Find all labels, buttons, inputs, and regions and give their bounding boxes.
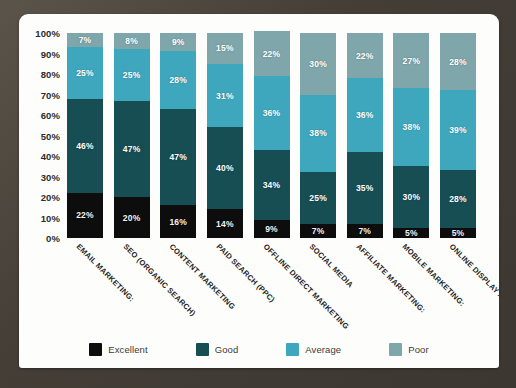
bar-segment-value-label: 30%	[403, 192, 421, 202]
bar-segment-excellent[interactable]: 22%	[67, 193, 103, 238]
y-axis-tick-label: 70%	[41, 89, 60, 100]
bar-segment-poor[interactable]: 22%	[347, 33, 383, 78]
bar-segment-excellent[interactable]: 5%	[440, 228, 476, 238]
bar-segment-good[interactable]: 40%	[207, 127, 243, 209]
bar-segment-excellent[interactable]: 5%	[393, 228, 429, 238]
bar-segment-value-label: 25%	[76, 68, 94, 78]
bar-segment-poor[interactable]: 30%	[300, 33, 336, 95]
bar-segment-value-label: 25%	[309, 193, 327, 203]
bar-segment-value-label: 14%	[216, 219, 234, 229]
bar-segment-value-label: 40%	[216, 163, 234, 173]
bar-column[interactable]: 7%25%38%30%	[300, 33, 336, 238]
legend-item-label: Excellent	[108, 344, 147, 355]
legend-item[interactable]: Average	[286, 343, 341, 356]
bar-segment-good[interactable]: 25%	[300, 172, 336, 223]
bar-segment-poor[interactable]: 8%	[114, 33, 150, 49]
bar-segment-average[interactable]: 39%	[440, 90, 476, 170]
bar-segment-poor[interactable]: 27%	[393, 33, 429, 88]
bar-segment-poor[interactable]: 15%	[207, 33, 243, 64]
legend-item[interactable]: Poor	[389, 343, 428, 356]
bar-column[interactable]: 5%30%38%27%	[393, 33, 429, 238]
bar-segment-excellent[interactable]: 16%	[160, 205, 196, 238]
legend-item[interactable]: Excellent	[89, 343, 147, 356]
x-axis-category-labels: EMAIL MARKETING:SEO (ORGANIC SEARCH)CONT…	[67, 242, 476, 342]
bar-segment-good[interactable]: 35%	[347, 152, 383, 224]
bar-segment-value-label: 39%	[449, 125, 467, 135]
bar-segment-value-label: 47%	[169, 152, 187, 162]
bar-column[interactable]: 5%28%39%28%	[440, 33, 476, 238]
bar-segment-value-label: 9%	[172, 37, 185, 47]
legend-item-label: Poor	[408, 344, 428, 355]
y-axis-tick-label: 0%	[46, 233, 60, 244]
bar-segment-excellent[interactable]: 14%	[207, 209, 243, 238]
bar-column[interactable]: 20%47%25%8%	[114, 33, 150, 238]
bar-segment-value-label: 27%	[403, 56, 421, 66]
legend-item-label: Good	[215, 344, 239, 355]
bar-column[interactable]: 22%46%25%7%	[67, 33, 103, 238]
bar-segment-value-label: 8%	[125, 36, 138, 46]
bar-segment-value-label: 7%	[312, 226, 325, 236]
bar-segment-good[interactable]: 46%	[67, 99, 103, 193]
bar-segment-excellent[interactable]: 9%	[254, 220, 290, 238]
x-axis-label: SOCIAL MEDIA	[308, 242, 355, 289]
bar-segment-average[interactable]: 38%	[393, 88, 429, 166]
bar-segment-value-label: 16%	[169, 217, 187, 227]
bar-segment-poor[interactable]: 7%	[67, 33, 103, 47]
bar-segment-value-label: 28%	[169, 75, 187, 85]
bar-segment-excellent[interactable]: 7%	[347, 224, 383, 238]
bar-column[interactable]: 9%34%36%22%	[254, 33, 290, 238]
bar-segment-poor[interactable]: 22%	[254, 31, 290, 76]
bar-segment-value-label: 7%	[358, 226, 371, 236]
y-axis-tick-label: 100%	[35, 28, 60, 39]
bar-segment-value-label: 7%	[79, 35, 92, 45]
bar-segment-value-label: 28%	[449, 194, 467, 204]
bar-segment-value-label: 35%	[356, 183, 374, 193]
legend-item[interactable]: Good	[196, 343, 239, 356]
bar-segment-value-label: 22%	[76, 210, 94, 220]
y-axis: 100%90%80%70%60%50%40%30%20%10%0%	[19, 33, 65, 238]
bar-segment-value-label: 34%	[263, 180, 281, 190]
bar-segment-value-label: 47%	[123, 144, 141, 154]
bar-segment-average[interactable]: 25%	[67, 47, 103, 98]
bar-segment-average[interactable]: 38%	[300, 95, 336, 173]
bar-segment-good[interactable]: 28%	[440, 170, 476, 227]
bar-segment-value-label: 20%	[123, 213, 141, 223]
bar-segment-excellent[interactable]: 7%	[300, 224, 336, 238]
bar-segment-value-label: 38%	[403, 122, 421, 132]
bar-column[interactable]: 16%47%28%9%	[160, 33, 196, 238]
photo-frame: 100%90%80%70%60%50%40%30%20%10%0% 22%46%…	[0, 0, 516, 388]
bar-segment-value-label: 22%	[263, 49, 281, 59]
bar-segment-value-label: 15%	[216, 43, 234, 53]
bar-segment-good[interactable]: 47%	[160, 109, 196, 205]
x-axis-label: OFFLINE DIRECT MARKETING	[261, 242, 350, 331]
bar-segment-poor[interactable]: 9%	[160, 33, 196, 51]
bar-segment-value-label: 31%	[216, 91, 234, 101]
bar-segment-average[interactable]: 28%	[160, 51, 196, 108]
legend-swatch-average	[286, 343, 299, 356]
bar-column[interactable]: 7%35%36%22%	[347, 33, 383, 238]
y-axis-tick-label: 10%	[41, 212, 60, 223]
bar-segment-good[interactable]: 47%	[114, 101, 150, 197]
bar-segment-value-label: 28%	[449, 57, 467, 67]
bar-segment-value-label: 46%	[76, 141, 94, 151]
plot-area: 22%46%25%7%20%47%25%8%16%47%28%9%14%40%3…	[67, 33, 476, 238]
bar-segment-value-label: 5%	[405, 228, 418, 238]
bar-segment-value-label: 22%	[356, 51, 374, 61]
y-axis-tick-label: 80%	[41, 69, 60, 80]
bar-segment-average[interactable]: 36%	[347, 78, 383, 152]
bar-segment-excellent[interactable]: 20%	[114, 197, 150, 238]
chart-legend: ExcellentGoodAveragePoor	[19, 343, 499, 356]
y-axis-tick-label: 40%	[41, 151, 60, 162]
bar-segment-average[interactable]: 36%	[254, 76, 290, 150]
chart-card: 100%90%80%70%60%50%40%30%20%10%0% 22%46%…	[19, 14, 499, 368]
bar-segment-value-label: 9%	[265, 224, 278, 234]
y-axis-tick-label: 60%	[41, 110, 60, 121]
bar-segment-average[interactable]: 25%	[114, 49, 150, 100]
legend-swatch-excellent	[89, 343, 102, 356]
legend-item-label: Average	[305, 344, 341, 355]
bar-segment-good[interactable]: 34%	[254, 150, 290, 220]
bar-segment-good[interactable]: 30%	[393, 166, 429, 228]
bar-segment-average[interactable]: 31%	[207, 64, 243, 128]
bar-segment-poor[interactable]: 28%	[440, 33, 476, 90]
bar-column[interactable]: 14%40%31%15%	[207, 33, 243, 238]
